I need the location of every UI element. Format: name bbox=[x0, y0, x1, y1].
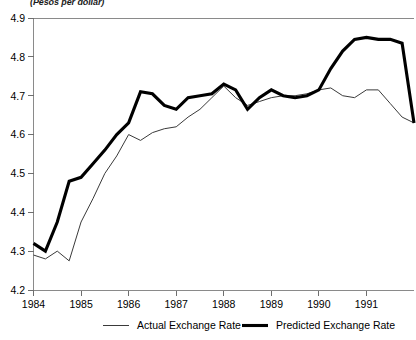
x-tick-label: 1988 bbox=[212, 298, 236, 310]
exchange-rate-line-chart: 4.24.34.44.54.64.74.84.9 198419851986198… bbox=[0, 0, 416, 340]
chart-root: (Pesos per dollar) 4.24.34.44.54.64.74.8… bbox=[0, 0, 416, 340]
y-axis-group: 4.24.34.44.54.64.74.84.9 bbox=[10, 12, 33, 296]
y-tick-label: 4.5 bbox=[10, 167, 25, 179]
y-tick-label: 4.2 bbox=[10, 284, 25, 296]
x-axis-group: 19841985198619871988198919901991 bbox=[22, 19, 414, 311]
series-line-actual-exchange-rate bbox=[34, 86, 415, 261]
x-tick-label: 1987 bbox=[165, 298, 189, 310]
legend-label-actual: Actual Exchange Rate bbox=[137, 319, 241, 331]
y-tick-label: 4.4 bbox=[10, 206, 25, 218]
x-tick-label: 1986 bbox=[117, 298, 141, 310]
x-tick-marks bbox=[34, 291, 367, 297]
y-tick-label: 4.8 bbox=[10, 51, 25, 63]
y-tick-label: 4.6 bbox=[10, 128, 25, 140]
y-tick-label: 4.9 bbox=[10, 12, 25, 24]
legend-label-predicted: Predicted Exchange Rate bbox=[276, 319, 395, 331]
y-tick-marks bbox=[28, 18, 34, 290]
x-tick-labels: 19841985198619871988198919901991 bbox=[22, 298, 378, 310]
y-tick-labels: 4.24.34.44.54.64.74.84.9 bbox=[10, 12, 25, 296]
series-line-predicted-exchange-rate bbox=[34, 37, 415, 251]
chart-legend: Actual Exchange RatePredicted Exchange R… bbox=[103, 319, 395, 331]
x-tick-label: 1984 bbox=[22, 298, 46, 310]
x-tick-label: 1990 bbox=[307, 298, 331, 310]
y-tick-label: 4.7 bbox=[10, 90, 25, 102]
x-tick-label: 1989 bbox=[260, 298, 284, 310]
data-series-group bbox=[34, 37, 415, 260]
x-tick-label: 1991 bbox=[355, 298, 379, 310]
y-tick-label: 4.3 bbox=[10, 245, 25, 257]
x-tick-label: 1985 bbox=[69, 298, 93, 310]
